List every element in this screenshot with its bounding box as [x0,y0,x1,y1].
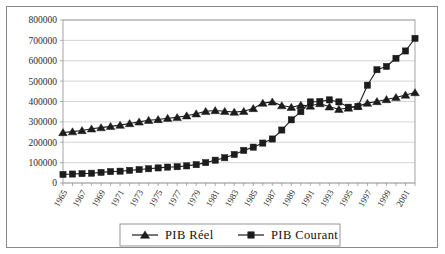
data-point-marker [107,168,113,174]
data-point-marker [279,127,285,133]
data-point-marker [326,97,332,103]
x-tick-label: 1991 [299,188,317,209]
x-tick-label: 1969 [90,188,108,209]
x-tick-label: 1989 [280,188,298,209]
data-point-marker [222,155,228,161]
data-point-marker [402,48,408,54]
data-point-marker [231,151,237,157]
data-point-marker [88,170,94,176]
x-tick-label: 1999 [375,188,393,209]
chart-figure: 0100000200000300000400000500000600000700… [0,0,445,254]
chart-svg: 0100000200000300000400000500000600000700… [0,0,445,254]
data-point-marker [325,103,334,110]
data-point-marker [355,103,361,109]
x-tick-label: 1967 [71,188,89,209]
x-tick-label: 1975 [147,188,165,209]
data-point-marker [297,101,306,108]
series-line [63,38,415,174]
series-line [63,93,415,133]
x-tick-label: 1997 [356,188,374,209]
y-tick-label: 0 [52,178,57,188]
data-point-marker [193,162,199,168]
legend-label: PIB Courant [271,228,338,242]
data-point-marker [165,164,171,170]
data-point-marker [383,63,389,69]
data-point-marker [241,147,247,153]
x-tick-label: 1993 [318,188,336,209]
x-tick-label: 1987 [261,188,279,209]
chart-canvas: 0100000200000300000400000500000600000700… [0,0,445,254]
data-point-marker [374,67,380,73]
x-tick-label: 1973 [128,188,146,209]
y-tick-label: 800000 [29,15,58,25]
data-point-marker [249,105,258,112]
data-point-marker [412,35,418,41]
data-point-marker [298,109,304,115]
legend-marker-square-icon [248,232,254,238]
data-point-marker [288,117,294,123]
x-tick-label: 1983 [223,188,241,209]
data-point-marker [269,136,275,142]
data-point-marker [393,55,399,61]
data-point-marker [155,165,161,171]
series-pib-reel [59,89,420,136]
x-tick-label: 2001 [394,188,412,209]
y-tick-label: 600000 [29,56,58,66]
data-point-marker [184,163,190,169]
x-tick-label: 1971 [109,188,127,209]
y-tick-label: 700000 [29,36,58,46]
y-tick-label: 200000 [29,138,58,148]
data-point-marker [60,171,66,177]
data-point-marker [364,82,370,88]
y-tick-label: 500000 [29,77,58,87]
data-point-marker [98,169,104,175]
x-tick-label: 1981 [204,188,222,209]
data-point-marker [79,171,85,177]
data-point-marker [278,102,287,109]
data-point-marker [336,99,342,105]
x-tick-label: 1985 [242,188,260,209]
data-point-marker [345,104,351,110]
data-point-marker [317,98,323,104]
x-axis: 1965196719691971197319751977197919811983… [52,183,415,209]
data-point-marker [146,166,152,172]
data-point-marker [174,164,180,170]
data-point-marker [69,171,75,177]
data-point-marker [136,166,142,172]
data-point-marker [250,144,256,150]
data-point-marker [411,89,420,96]
legend-label: PIB Réel [165,228,214,242]
x-tick-label: 1977 [166,188,184,209]
data-point-marker [211,107,220,114]
y-tick-label: 100000 [29,158,58,168]
data-point-marker [203,160,209,166]
data-point-marker [126,167,132,173]
y-tick-label: 400000 [29,97,58,107]
data-point-marker [117,168,123,174]
x-tick-label: 1979 [185,188,203,209]
data-point-marker [307,99,313,105]
data-point-marker [260,140,266,146]
x-tick-label: 1965 [52,188,70,209]
y-gridlines: 0100000200000300000400000500000600000700… [29,15,416,188]
x-tick-label: 1995 [337,188,355,209]
y-tick-label: 300000 [29,117,58,127]
chart-legend: PIB RéelPIB Courant [120,224,340,246]
data-point-marker [212,157,218,163]
